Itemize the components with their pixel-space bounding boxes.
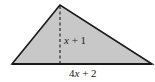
height-label-rest: + 1 — [69, 34, 86, 46]
triangle-diagram: x + 1 4x + 2 — [0, 0, 155, 82]
base-label: 4x + 2 — [69, 68, 97, 79]
height-label: x + 1 — [64, 35, 86, 46]
base-label-rest: + 2 — [79, 67, 96, 79]
